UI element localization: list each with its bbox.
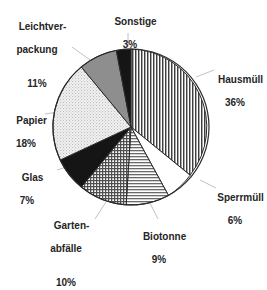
label-sonstige: Sonstige 3%	[98, 4, 162, 73]
leader-gartenabfaelle	[95, 202, 106, 219]
label-leichtverpackung-pct: 11%	[2, 78, 72, 90]
label-glas-pct: 7%	[4, 195, 50, 207]
leader-leichtverpackung	[72, 47, 93, 62]
label-leichtverpackung-name2: packung	[2, 44, 72, 56]
label-biotonne-pct: 9%	[128, 254, 190, 266]
label-leichtverpackung: Leichtver- packung 11%	[2, 9, 72, 113]
label-hausmuell-pct: 36%	[205, 97, 265, 109]
label-papier-name: Papier	[16, 115, 47, 126]
label-biotonne: Biotonne 9%	[128, 219, 190, 288]
label-glas-name: Glas	[22, 172, 44, 183]
label-papier-pct: 18%	[2, 138, 50, 150]
label-gartenabfaelle-pct: 10%	[36, 277, 96, 289]
label-sperrmuell-name: Sperrmüll	[217, 192, 264, 203]
leader-biotonne	[150, 203, 158, 219]
label-gartenabfaelle-name2: abfälle	[36, 243, 96, 255]
label-leichtverpackung-name: Leichtver-	[19, 21, 67, 32]
label-gartenabfaelle-name: Garten-	[54, 220, 90, 231]
label-hausmuell-name: Hausmüll	[218, 74, 263, 85]
label-sonstige-pct: 3%	[98, 39, 162, 51]
label-hausmuell: Hausmüll 36%	[205, 62, 265, 131]
label-sperrmuell-pct: 6%	[204, 215, 266, 227]
label-biotonne-name: Biotonne	[143, 231, 186, 242]
label-sperrmuell: Sperrmüll 6%	[204, 180, 266, 249]
label-sonstige-name: Sonstige	[114, 16, 156, 27]
label-gartenabfaelle: Garten- abfälle 10%	[36, 208, 96, 290]
